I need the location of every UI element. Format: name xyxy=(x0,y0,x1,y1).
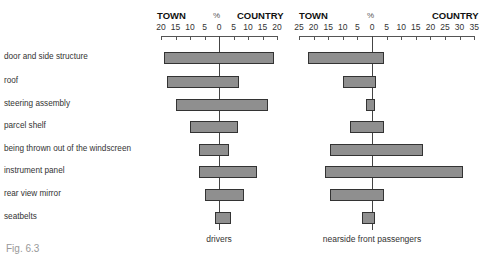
bar-drivers xyxy=(215,212,231,224)
category-label: door and side structure xyxy=(4,52,88,61)
panel-caption: nearside front passengers xyxy=(323,234,421,244)
bar-passengers xyxy=(366,99,375,111)
bar-drivers xyxy=(167,76,240,88)
bar-passengers xyxy=(308,52,384,64)
bar-drivers xyxy=(199,166,257,178)
bar-passengers xyxy=(343,76,377,88)
country-header: COUNTRY xyxy=(237,10,284,21)
country-header: COUNTRY xyxy=(432,10,479,21)
bar-passengers xyxy=(330,144,423,156)
category-label: rear view mirror xyxy=(4,189,61,198)
axis-tick-label: 0 xyxy=(217,22,222,32)
axis-tick-label: 25 xyxy=(294,22,303,32)
x-axis xyxy=(299,36,475,37)
axis-tick-label: 15 xyxy=(258,22,267,32)
axis-tick-label: 20 xyxy=(426,22,435,32)
axis-tick-label: 15 xyxy=(411,22,420,32)
axis-tick-label: 20 xyxy=(309,22,318,32)
axis-tick-label: 30 xyxy=(455,22,464,32)
axis-tick-label: 20 xyxy=(272,22,281,32)
bar-drivers xyxy=(199,144,229,156)
bar-drivers xyxy=(164,52,274,64)
category-label: steering assembly xyxy=(4,99,70,108)
category-label: instrument panel xyxy=(4,166,65,175)
town-header: TOWN xyxy=(157,10,186,21)
axis-tick-label: 35 xyxy=(469,22,478,32)
figure-caption: Fig. 6.3 xyxy=(6,243,39,254)
bar-passengers xyxy=(325,166,462,178)
category-label: being thrown out of the windscreen xyxy=(4,144,131,153)
bar-passengers xyxy=(330,189,384,201)
category-label: seatbelts xyxy=(4,212,37,221)
axis-tick-label: 5 xyxy=(202,22,207,32)
axis-tick-label: 5 xyxy=(231,22,236,32)
axis-tick-label: 10 xyxy=(243,22,252,32)
town-header: TOWN xyxy=(299,10,328,21)
axis-tick-label: 0 xyxy=(370,22,375,32)
bar-drivers xyxy=(176,99,269,111)
axis-tick-label: 15 xyxy=(171,22,180,32)
percent-label: % xyxy=(367,11,374,20)
bar-passengers xyxy=(362,212,375,224)
category-label: roof xyxy=(4,76,18,85)
axis-tick-label: 5 xyxy=(384,22,389,32)
bar-drivers xyxy=(205,189,244,201)
axis-tick-label: 20 xyxy=(156,22,165,32)
bar-drivers xyxy=(190,121,238,133)
axis-tick-label: 10 xyxy=(185,22,194,32)
axis-tick-label: 15 xyxy=(323,22,332,32)
axis-tick-label: 5 xyxy=(355,22,360,32)
axis-tick-label: 25 xyxy=(440,22,449,32)
bar-passengers xyxy=(350,121,384,133)
panel-caption: drivers xyxy=(206,234,232,244)
category-label: parcel shelf xyxy=(4,121,46,130)
axis-tick-label: 10 xyxy=(338,22,347,32)
percent-label: % xyxy=(213,11,220,20)
axis-tick-label: 10 xyxy=(396,22,405,32)
